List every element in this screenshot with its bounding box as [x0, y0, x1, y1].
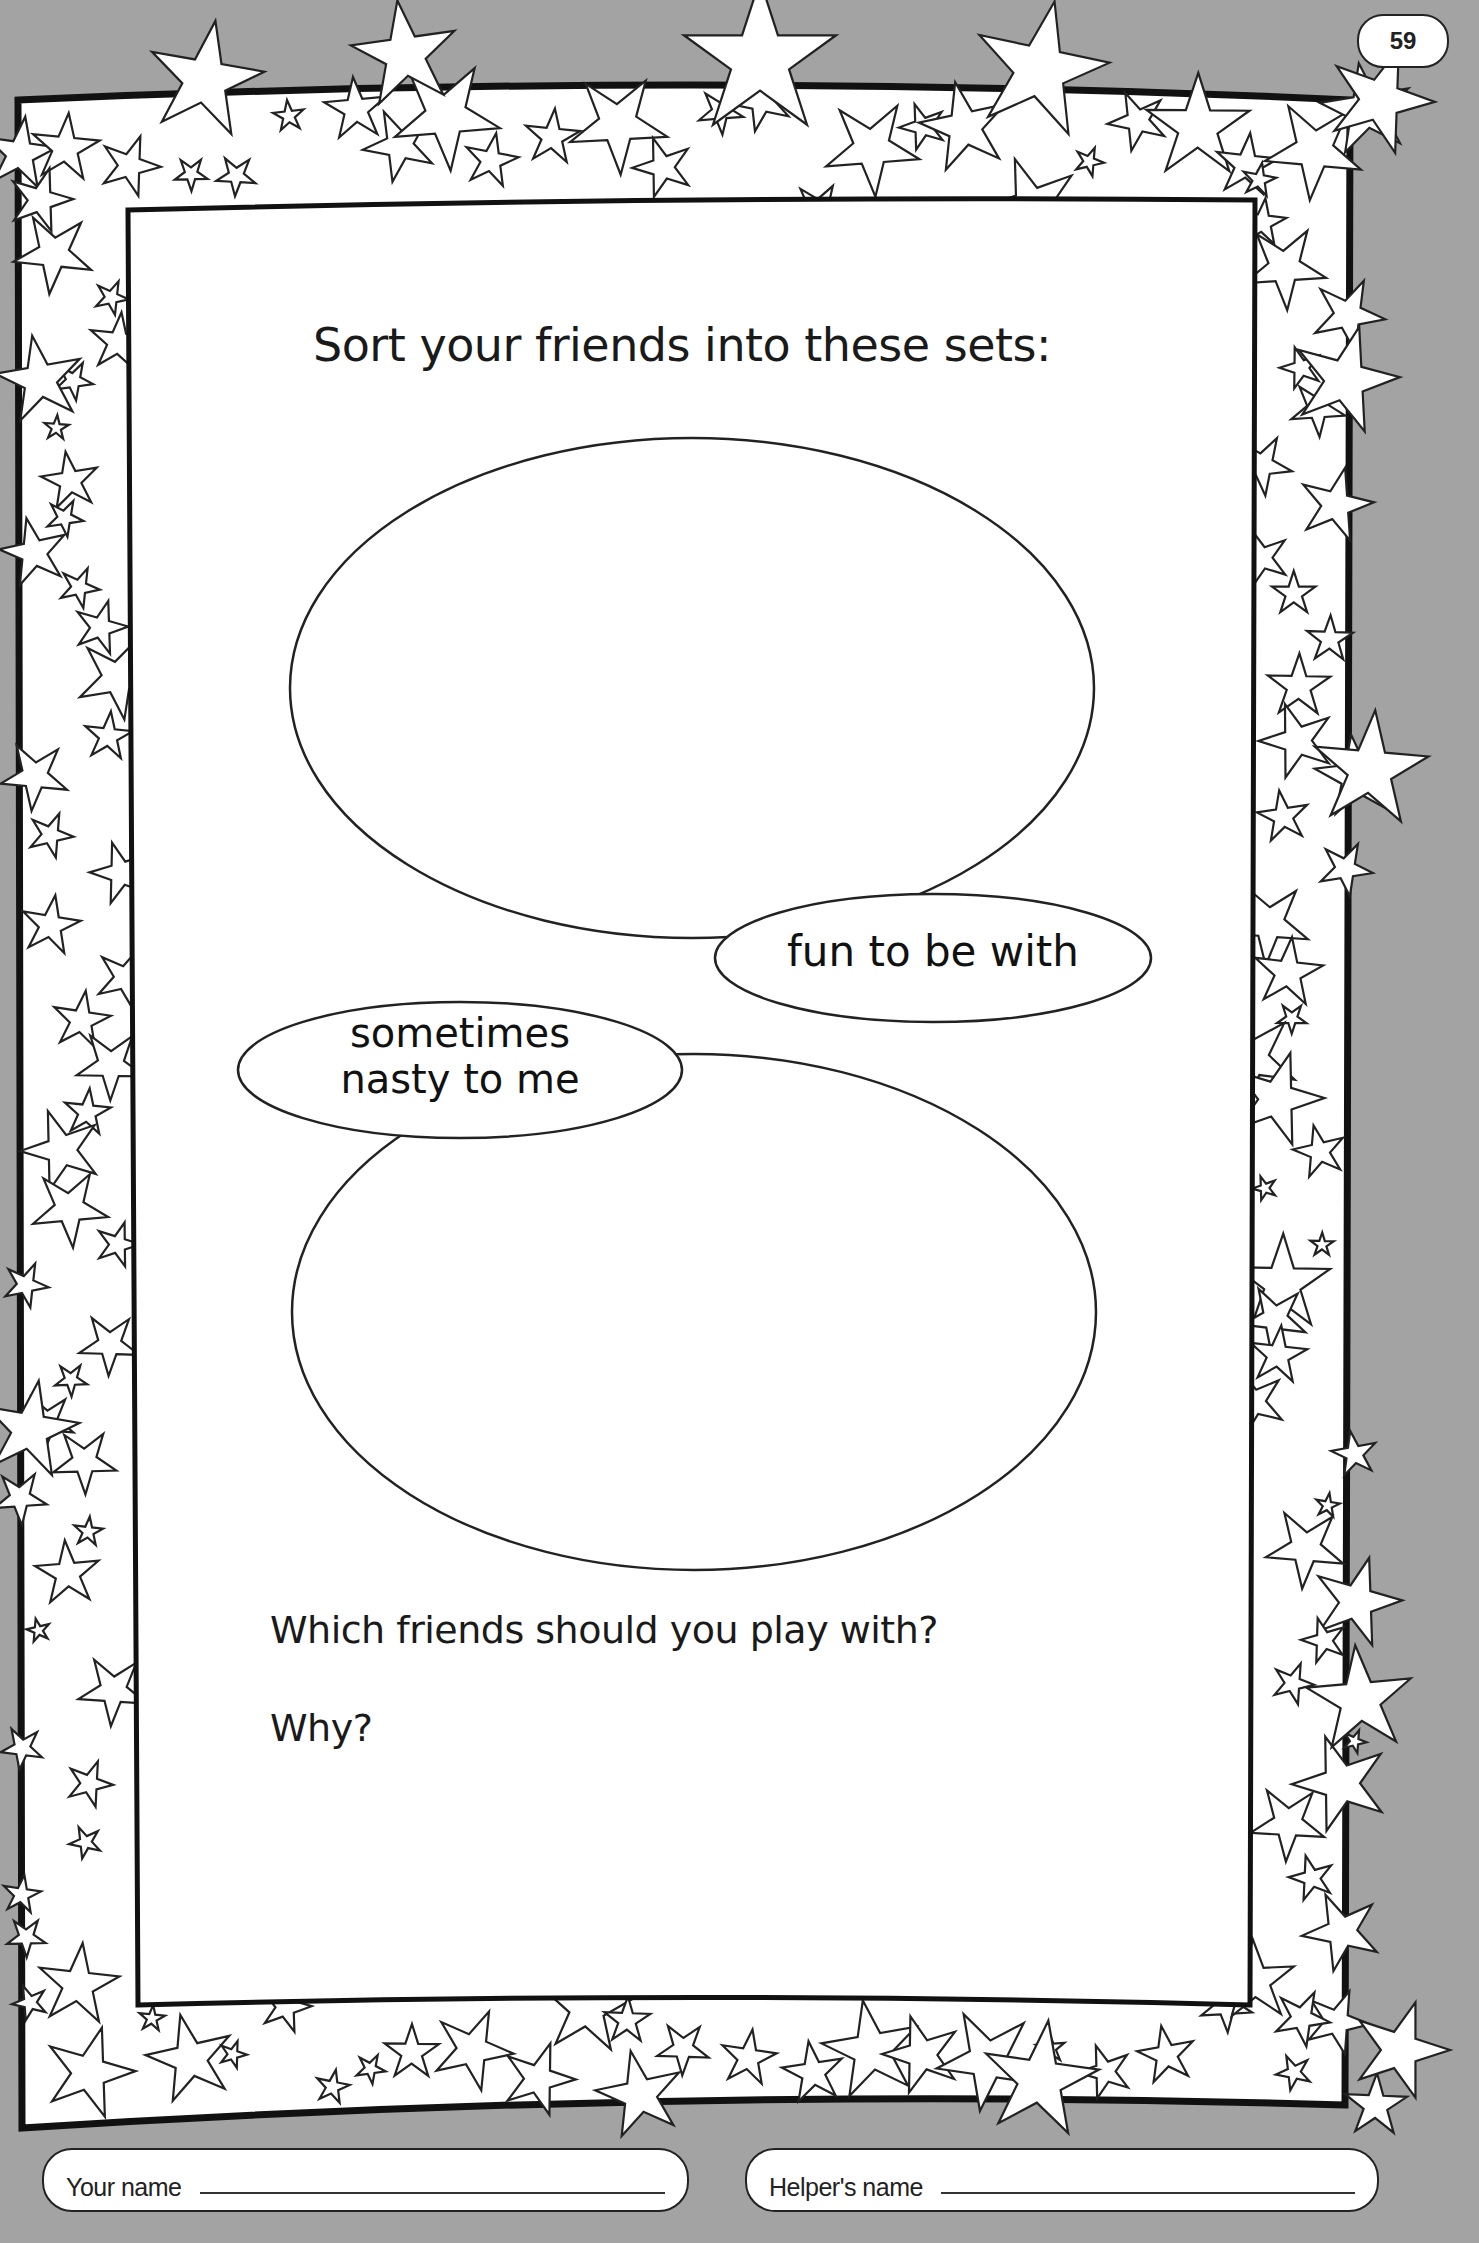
your-name-line[interactable]: [200, 2191, 666, 2194]
set-label-line-2: nasty to me: [238, 1056, 682, 1102]
set-label-line-1: sometimes: [238, 1010, 682, 1056]
helpers-name-label: Helper's name: [769, 2173, 923, 2202]
question-which-friends: Which friends should you play with?: [270, 1608, 938, 1652]
helpers-name-field[interactable]: Helper's name: [745, 2148, 1379, 2212]
set-label-fun-to-be-with: fun to be with: [715, 928, 1151, 976]
question-why: Why?: [270, 1706, 372, 1750]
worksheet-title: Sort your friends into these sets:: [313, 318, 1051, 372]
star-icon: [1344, 2072, 1408, 2134]
set-label-sometimes-nasty: sometimes nasty to me: [238, 1010, 682, 1102]
helpers-name-line[interactable]: [941, 2191, 1355, 2194]
set-label-text: fun to be with: [787, 927, 1079, 976]
star-icon: [1342, 1988, 1460, 2103]
your-name-label: Your name: [66, 2173, 182, 2202]
page-number-badge: 59: [1357, 14, 1449, 68]
your-name-field[interactable]: Your name: [42, 2148, 689, 2212]
